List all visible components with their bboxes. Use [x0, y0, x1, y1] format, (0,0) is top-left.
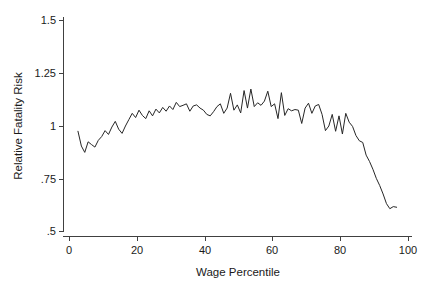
y-axis-ticks	[59, 21, 63, 232]
x-tick-label-0: 0	[66, 244, 72, 256]
x-tick-label-20: 20	[131, 244, 143, 256]
y-tick-label-1-5: 1.5	[41, 14, 56, 26]
y-axis-title: Relative Fatality Risk	[12, 72, 24, 180]
y-tick-label-0-5: .5	[47, 225, 56, 237]
y-tick-label-0-75: .75	[41, 173, 56, 185]
x-tick-label-80: 80	[334, 244, 346, 256]
relative-fatality-risk-line-chart: Relative Fatality Risk 1.5 1.25 1 .75 .5	[0, 0, 433, 289]
chart-figure: Relative Fatality Risk 1.5 1.25 1 .75 .5	[0, 0, 433, 289]
x-axis-title: Wage Percentile	[196, 266, 280, 278]
x-tick-label-100: 100	[399, 244, 417, 256]
y-tick-label-1: 1	[50, 120, 56, 132]
fatality-risk-series-line	[78, 89, 397, 209]
y-tick-label-1-25: 1.25	[35, 67, 56, 79]
x-tick-label-40: 40	[199, 244, 211, 256]
x-tick-label-60: 60	[266, 244, 278, 256]
